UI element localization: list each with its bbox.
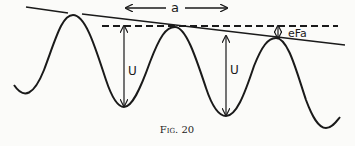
barrier-label-right: U [230, 63, 239, 77]
potential-diagram: a U U eFa Fig. 20 [0, 0, 355, 146]
field-drop-label: eFa [288, 27, 307, 40]
figure-caption: Fig. 20 [160, 124, 194, 135]
field-slope-line [26, 7, 68, 13]
period-label: a [171, 0, 179, 15]
barrier-label-left: U [128, 64, 137, 78]
figure-20: a U U eFa Fig. 20 [0, 0, 355, 146]
